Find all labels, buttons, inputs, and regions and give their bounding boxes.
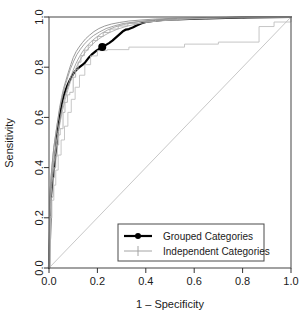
y-tick-label-5: 1.0 [33, 9, 45, 24]
y-axis-tick-labels: 0.00.20.40.60.81.0 [33, 9, 45, 275]
x-axis-ticks [49, 268, 291, 273]
y-axis-ticks [44, 17, 49, 268]
grouped-operating-point-marker [98, 43, 106, 51]
y-tick-label-4: 0.8 [33, 60, 45, 75]
y-tick-label-1: 0.2 [33, 210, 45, 225]
x-axis-title: 1 – Specificity [136, 298, 204, 310]
x-tick-label-5: 1.0 [283, 275, 298, 287]
y-axis-title: Sensitivity [3, 118, 15, 168]
plot-canvas: 0.00.20.40.60.81.0 0.00.20.40.60.81.0 1 … [0, 0, 308, 319]
x-axis-tick-labels: 0.00.20.40.60.81.0 [41, 275, 298, 287]
x-tick-label-4: 0.8 [235, 275, 250, 287]
chart-legend: Grouped CategoriesIndependent Categories [118, 224, 270, 261]
legend-label-1: Independent Categories [163, 246, 270, 257]
x-tick-label-3: 0.6 [187, 275, 202, 287]
x-tick-label-0: 0.0 [41, 275, 56, 287]
x-tick-label-2: 0.4 [138, 275, 153, 287]
x-tick-label-1: 0.2 [90, 275, 105, 287]
legend-label-0: Grouped Categories [163, 231, 253, 242]
y-tick-label-0: 0.0 [33, 260, 45, 275]
y-tick-label-3: 0.6 [33, 110, 45, 125]
roc-curve-figure: 0.00.20.40.60.81.0 0.00.20.40.60.81.0 1 … [0, 0, 308, 319]
y-tick-label-2: 0.4 [33, 160, 45, 175]
legend-marker-circle-icon [135, 233, 141, 239]
grouped-operating-point [98, 43, 106, 51]
